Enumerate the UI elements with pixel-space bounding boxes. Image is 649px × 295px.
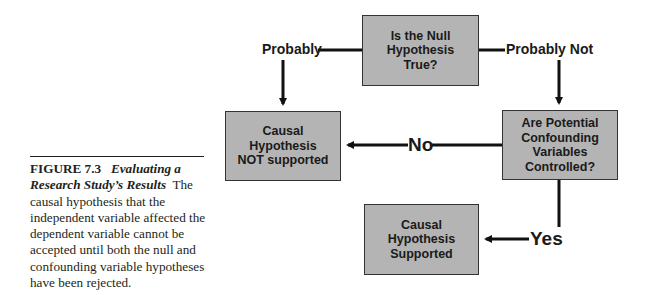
edge-label-no: No <box>408 134 433 156</box>
node-null-hypothesis-question: Is the Null Hypothesis True? <box>362 15 479 86</box>
node-causal-supported: Causal Hypothesis Supported <box>364 204 479 275</box>
node-label: Causal Hypothesis Supported <box>387 218 456 262</box>
node-causal-not-supported: Causal Hypothesis NOT supported <box>225 111 341 181</box>
edge-label-probably: Probably <box>262 41 322 57</box>
node-label: Is the Null Hypothesis True? <box>377 29 464 73</box>
edge-label-probably-not: Probably Not <box>506 41 593 57</box>
edge-label-yes: Yes <box>530 228 563 250</box>
node-label: Causal Hypothesis NOT supported <box>236 124 330 168</box>
node-confounding-question: Are Potential Confounding Variables Cont… <box>502 110 618 180</box>
node-label: Are Potential Confounding Variables Cont… <box>511 116 609 174</box>
